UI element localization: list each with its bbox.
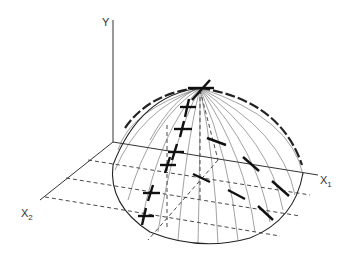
x2-axis-label: X2 [21, 207, 33, 222]
x1-axis-label: X1 [320, 174, 332, 189]
x2-axis [40, 142, 113, 200]
surface-ridge-right [200, 88, 302, 165]
dome-diagram: Y X1 X2 [0, 0, 350, 263]
y-axis-label: Y [102, 16, 110, 28]
surface-outline [112, 88, 303, 244]
